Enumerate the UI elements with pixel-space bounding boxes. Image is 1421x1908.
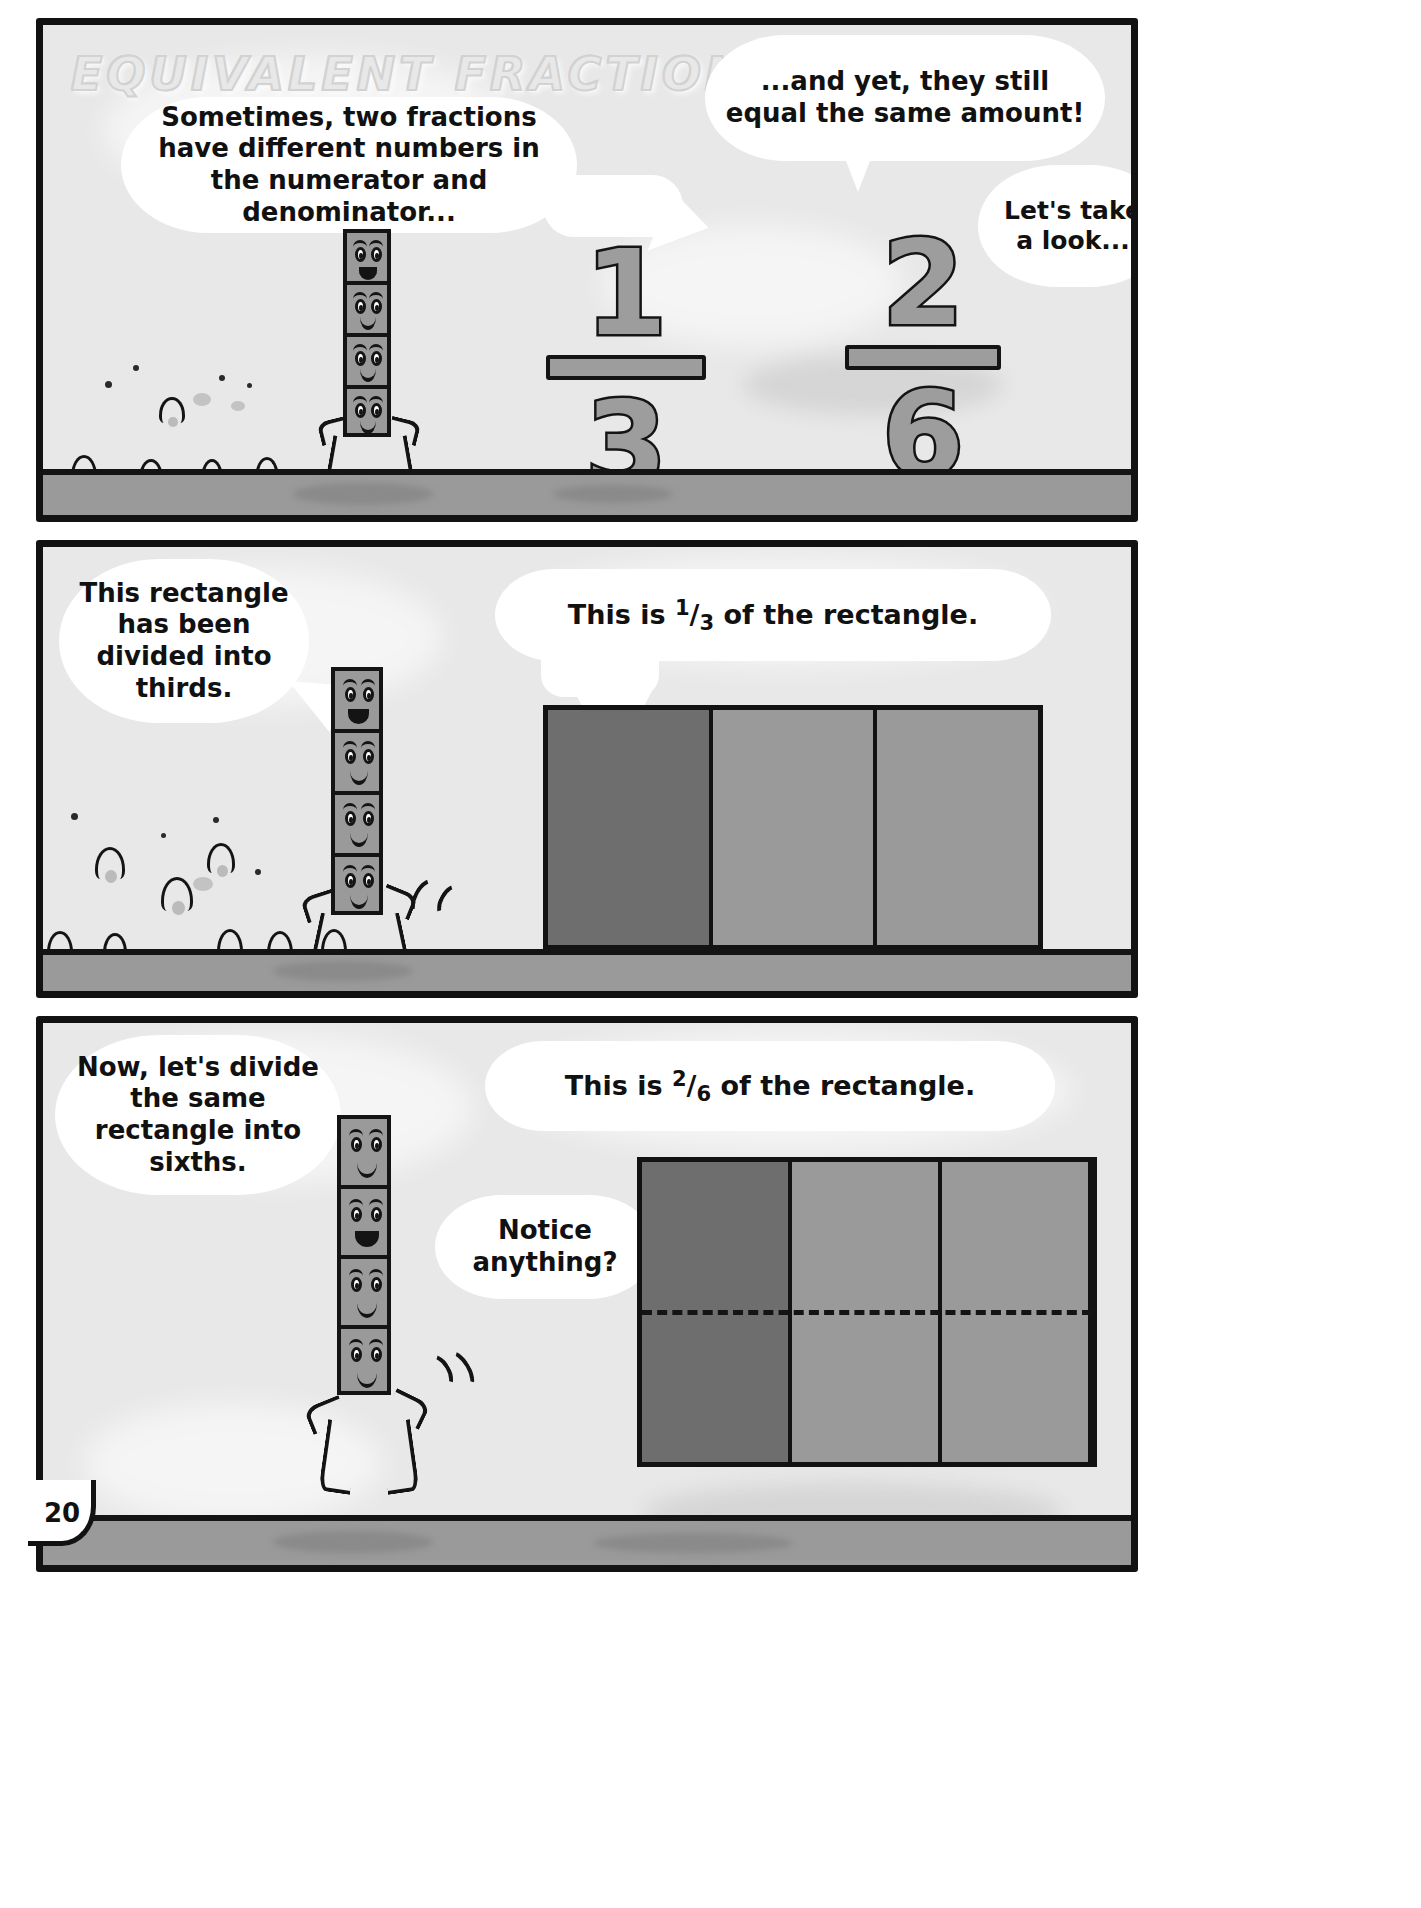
panel-2: This rectangle has been divided into thi…	[36, 540, 1138, 998]
thirds-rectangle	[543, 705, 1043, 950]
two-sixths-label-text: This is 2/6 of the rectangle.	[565, 1066, 975, 1107]
notice-anything-bubble: Notice anything?	[435, 1195, 655, 1299]
two-sixths-suffix: of the rectangle.	[711, 1069, 975, 1100]
intro-bubble-text: Sometimes, two fractions have different …	[139, 102, 559, 229]
block-character-panel-1	[315, 229, 435, 485]
fraction-two-sixths: 2 6	[833, 227, 1013, 490]
thirds-cell-2	[713, 710, 878, 945]
fraction-one-third-numerator: 1	[536, 237, 716, 349]
panel-1: EQUIVALENT FRACTIONS Sometimes, two frac…	[36, 18, 1138, 522]
character-block	[343, 229, 391, 281]
panel-3: Now, let's divide the same rectangle int…	[36, 1016, 1138, 1572]
ground	[43, 469, 1131, 515]
character-block	[331, 853, 383, 915]
two-sixths-label-bubble: This is 2/6 of the rectangle.	[485, 1041, 1055, 1131]
inline-fraction-slash: /	[687, 1069, 697, 1100]
character-leg-right	[378, 1419, 420, 1495]
block-character-panel-2	[299, 667, 429, 967]
character-block	[343, 385, 391, 437]
character-block	[337, 1325, 391, 1395]
pebble	[207, 843, 235, 873]
thirds-cell-1	[548, 710, 713, 945]
character-block	[343, 333, 391, 385]
ground	[43, 1515, 1131, 1565]
sixths-bubble-text: Now, let's divide the same rectangle int…	[73, 1052, 323, 1179]
inline-fraction-one-third: 1/3	[675, 595, 714, 636]
ground	[43, 949, 1131, 991]
inline-fraction-numerator: 2	[672, 1066, 687, 1091]
lets-take-a-look-text: Let's take a look...	[996, 196, 1131, 257]
block-character-panel-3	[301, 1115, 441, 1495]
inline-fraction-denominator: 6	[696, 1081, 711, 1106]
dust-dot	[133, 365, 139, 371]
pebble	[161, 877, 193, 911]
dust-speck	[193, 393, 211, 406]
two-sixths-prefix: This is	[565, 1069, 672, 1100]
dust-dot	[71, 813, 78, 820]
character-block	[337, 1255, 391, 1325]
thirds-cell-3	[877, 710, 1038, 945]
inline-fraction-slash: /	[690, 598, 700, 629]
page-title: EQUIVALENT FRACTIONS	[71, 47, 785, 101]
pebble	[159, 397, 185, 423]
inline-fraction-two-sixths: 2/6	[672, 1066, 711, 1107]
sixths-dashed-midline	[642, 1310, 1092, 1315]
dust-dot	[213, 817, 219, 823]
character-block	[331, 729, 383, 791]
one-third-suffix: of the rectangle.	[714, 598, 978, 629]
character-block	[331, 791, 383, 853]
dust-dot	[247, 383, 252, 388]
dust-dot	[161, 833, 166, 838]
dust-dot	[105, 381, 112, 388]
character-block	[331, 667, 383, 729]
dust-dot	[219, 375, 225, 381]
dust-speck	[193, 877, 213, 891]
character-block	[343, 281, 391, 333]
character-block	[337, 1115, 391, 1185]
one-third-label-text: This is 1/3 of the rectangle.	[568, 595, 978, 636]
intro-bubble: Sometimes, two fractions have different …	[121, 97, 577, 233]
and-yet-bubble-text: ...and yet, they still equal the same am…	[723, 66, 1087, 129]
page-number: 20	[44, 1498, 80, 1528]
character-block	[337, 1185, 391, 1255]
dust-dot	[255, 869, 261, 875]
inline-fraction-numerator: 1	[675, 595, 690, 620]
sixths-bubble: Now, let's divide the same rectangle int…	[55, 1035, 341, 1195]
dust-speck	[231, 401, 245, 411]
sixths-rectangle	[637, 1157, 1097, 1467]
fraction-one-third: 1 3	[536, 237, 716, 500]
and-yet-bubble-tail	[838, 140, 878, 192]
comic-page: EQUIVALENT FRACTIONS Sometimes, two frac…	[0, 0, 1421, 1908]
inline-fraction-denominator: 3	[699, 610, 714, 635]
pebble	[95, 847, 125, 879]
fraction-two-sixths-numerator: 2	[833, 227, 1013, 339]
thirds-bubble-text: This rectangle has been divided into thi…	[77, 578, 291, 705]
notice-anything-text: Notice anything?	[453, 1215, 637, 1278]
thirds-bubble: This rectangle has been divided into thi…	[59, 559, 309, 723]
one-third-prefix: This is	[568, 598, 675, 629]
and-yet-bubble: ...and yet, they still equal the same am…	[705, 35, 1105, 161]
